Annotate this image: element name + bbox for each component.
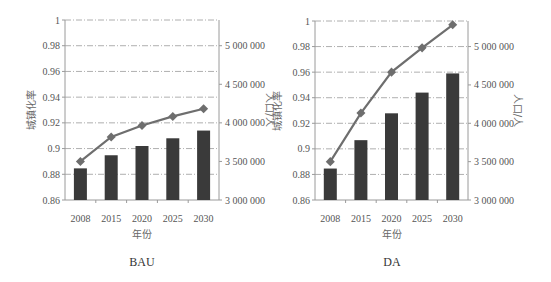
- x-tick-label: 2020: [132, 213, 152, 224]
- y-left-tick-label: 1: [305, 16, 310, 27]
- diamond-marker: [168, 112, 177, 121]
- y-left-tick-label: 0.98: [293, 41, 311, 52]
- y-left-tick-label: 0.86: [293, 195, 311, 206]
- y-left-tick-label: 0.92: [293, 118, 311, 129]
- y-right-tick-label: 3 500 000: [474, 156, 514, 167]
- chart-caption: BAU: [129, 255, 155, 269]
- y-right-tick-label: 3 000 000: [225, 195, 265, 206]
- y-right-tick-label: 4 000 000: [225, 117, 265, 128]
- x-tick-label: 2008: [70, 213, 90, 224]
- y-right-tick-label: 4 000 000: [474, 118, 514, 129]
- y-axis-right-label: 人口/人: [512, 94, 523, 127]
- y-axis-left-label: 城镇化率: [25, 90, 37, 130]
- x-tick-label: 2020: [382, 213, 402, 224]
- y-right-tick-label: 4 500 000: [225, 79, 265, 90]
- y-axis-left-label: 城镇化率: [271, 91, 283, 131]
- chart-caption: DA: [383, 255, 401, 269]
- x-axis-label: 年份: [132, 228, 152, 240]
- bar: [105, 155, 118, 200]
- diamond-marker: [199, 104, 208, 113]
- bar: [74, 168, 87, 200]
- x-tick-label: 2030: [443, 213, 463, 224]
- chart-bau: 0.860.880.90.920.940.960.9813 000 0003 5…: [25, 15, 275, 270]
- x-tick-label: 2015: [351, 213, 371, 224]
- y-left-tick-label: 0.94: [43, 92, 61, 103]
- bar: [136, 146, 149, 200]
- chart-canvas: 0.860.880.90.920.940.960.9813 000 0003 5…: [0, 0, 551, 282]
- x-axis-label: 年份: [382, 228, 402, 240]
- y-left-tick-label: 0.96: [293, 67, 311, 78]
- diamond-marker: [137, 121, 146, 130]
- x-tick-label: 2008: [320, 213, 340, 224]
- y-left-tick-label: 0.88: [43, 169, 61, 180]
- y-right-tick-label: 3 500 000: [225, 156, 265, 167]
- y-right-tick-label: 5 000 000: [225, 40, 265, 51]
- x-tick-label: 2030: [194, 213, 214, 224]
- y-left-tick-label: 0.88: [293, 169, 311, 180]
- bar: [324, 169, 337, 200]
- x-tick-label: 2025: [163, 213, 183, 224]
- y-left-tick-label: 0.94: [293, 92, 311, 103]
- bar: [197, 131, 210, 200]
- y-right-tick-label: 4 500 000: [474, 79, 514, 90]
- bar: [416, 93, 429, 200]
- y-left-tick-label: 0.96: [43, 66, 61, 77]
- y-left-tick-label: 0.98: [43, 40, 61, 51]
- bar: [446, 73, 459, 200]
- y-right-tick-label: 5 000 000: [474, 41, 514, 52]
- y-left-tick-label: 0.9: [298, 143, 311, 154]
- bar: [166, 138, 179, 200]
- chart-da: 0.860.880.90.920.940.960.9813 000 0003 5…: [271, 16, 523, 270]
- bar: [354, 140, 367, 200]
- bar: [385, 113, 398, 200]
- x-tick-label: 2025: [412, 213, 432, 224]
- y-left-tick-label: 0.9: [48, 143, 61, 154]
- y-left-tick-label: 0.86: [43, 195, 61, 206]
- x-tick-label: 2015: [101, 213, 121, 224]
- y-left-tick-label: 0.92: [43, 117, 61, 128]
- y-left-tick-label: 1: [55, 15, 60, 26]
- y-right-tick-label: 3 000 000: [474, 195, 514, 206]
